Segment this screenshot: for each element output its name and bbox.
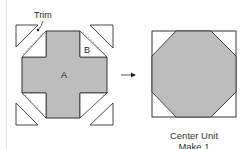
trimmed-triangle-bottom-right xyxy=(90,103,113,125)
center-unit-octagon xyxy=(152,31,236,117)
center-unit-caption-line1: Center Unit xyxy=(149,130,239,141)
arrow-right-icon xyxy=(121,73,136,78)
trim-pointer-dot xyxy=(37,29,40,32)
trim-pointer-line xyxy=(38,21,43,30)
piece-a-label: A xyxy=(61,70,67,80)
center-unit-caption-line2: Make 1 xyxy=(149,141,239,149)
center-unit-figure xyxy=(152,31,236,117)
diagram-canvas xyxy=(0,0,247,149)
piece-b-label: B xyxy=(84,45,90,55)
trim-label: Trim xyxy=(34,10,52,20)
